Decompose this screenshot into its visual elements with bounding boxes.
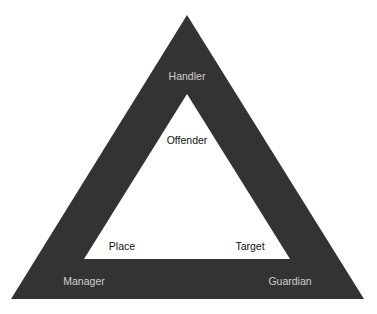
label-handler: Handler xyxy=(169,70,206,82)
crime-triangle-diagram: Handler Manager Guardian Offender Place … xyxy=(0,0,377,314)
label-place: Place xyxy=(109,240,135,252)
label-manager: Manager xyxy=(63,275,104,287)
label-target: Target xyxy=(235,240,264,252)
label-offender: Offender xyxy=(167,134,208,146)
label-guardian: Guardian xyxy=(268,275,311,287)
triangle-graphic xyxy=(0,0,377,314)
